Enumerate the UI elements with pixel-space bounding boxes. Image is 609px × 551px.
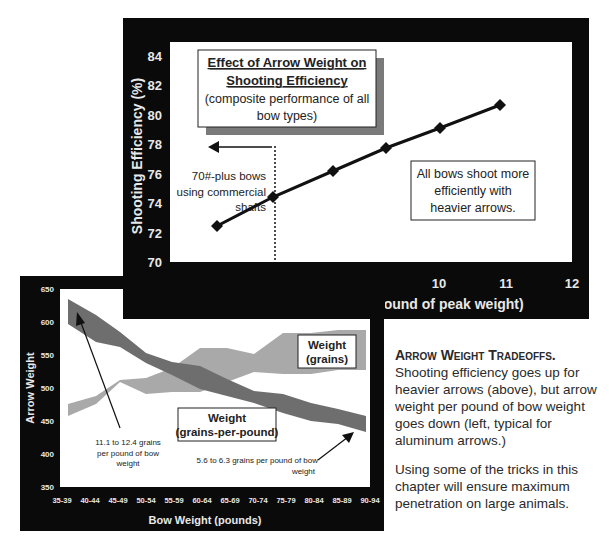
svg-text:500: 500	[41, 384, 55, 393]
bottom-x-ticks: 35-39 40-44 45-49 50-54 55-59 60-64 65-6…	[52, 496, 380, 505]
bottom-y-ticks: 650 600 550 500 450 400 350	[41, 285, 55, 492]
caption-heading: Arrow Weight Tradeoffs.	[395, 347, 556, 363]
svg-text:Weight: Weight	[308, 339, 346, 351]
svg-text:11.1 to 12.4 grains: 11.1 to 12.4 grains	[95, 438, 161, 447]
svg-text:70-74: 70-74	[248, 496, 268, 505]
caption: Arrow Weight Tradeoffs.Shooting efficien…	[395, 347, 605, 524]
svg-text:75-79: 75-79	[276, 496, 295, 505]
svg-text:50-54: 50-54	[136, 496, 156, 505]
bottom-y-axis-label: Arrow Weight	[24, 352, 36, 424]
svg-text:550: 550	[41, 351, 55, 360]
svg-text:45-49: 45-49	[108, 496, 127, 505]
svg-text:60-64: 60-64	[192, 496, 212, 505]
svg-text:90-94: 90-94	[360, 496, 380, 505]
top-frame-overlap	[123, 289, 385, 319]
svg-text:(grains-per-pound): (grains-per-pound)	[176, 426, 279, 438]
svg-text:450: 450	[41, 417, 55, 426]
svg-text:350: 350	[41, 483, 55, 492]
svg-text:40-44: 40-44	[80, 496, 100, 505]
svg-text:650: 650	[41, 285, 55, 294]
bottom-x-axis-label: Bow Weight (pounds)	[149, 514, 262, 526]
svg-text:65-69: 65-69	[220, 496, 239, 505]
svg-text:weight: weight	[291, 467, 316, 476]
svg-text:400: 400	[41, 450, 55, 459]
svg-text:35-39: 35-39	[52, 496, 71, 505]
svg-text:80-84: 80-84	[304, 496, 324, 505]
caption-paragraph-2: Using some of the tricks in this chapter…	[395, 461, 605, 512]
svg-text:Weight: Weight	[208, 412, 246, 424]
svg-text:per pound of bow: per pound of bow	[97, 449, 159, 458]
svg-text:(grains): (grains)	[306, 353, 348, 365]
svg-text:5.6 to 6.3 grains per pound of: 5.6 to 6.3 grains per pound of bow	[197, 456, 319, 465]
svg-text:85-89: 85-89	[332, 496, 351, 505]
caption-paragraph-1: Arrow Weight Tradeoffs.Shooting efficien…	[395, 347, 605, 449]
svg-text:600: 600	[41, 318, 55, 327]
svg-text:55-59: 55-59	[164, 496, 183, 505]
svg-text:weight: weight	[115, 459, 140, 468]
